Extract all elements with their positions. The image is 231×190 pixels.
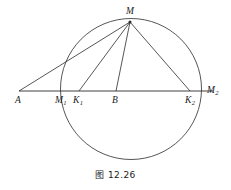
point-label-m2-base: M <box>207 85 215 95</box>
point-label-m: M <box>126 7 134 17</box>
segment-a-to-m <box>19 22 130 91</box>
segment-m-to-k2 <box>130 22 190 91</box>
point-label-m1-base: M <box>55 95 63 105</box>
point-label-k1-sub: 1 <box>80 99 83 106</box>
figure-caption: 图 12.26 <box>0 168 231 181</box>
point-label-k2-base: K <box>185 95 191 105</box>
point-label-k2: K2 <box>185 96 195 106</box>
point-label-k1: K1 <box>73 96 83 106</box>
point-label-m1: M1 <box>55 96 66 106</box>
point-label-k1-base: K <box>73 95 79 105</box>
segment-m-to-b <box>116 22 130 91</box>
point-label-b: B <box>112 96 118 106</box>
segment-m-to-k1 <box>79 22 130 91</box>
point-label-m2-sub: 2 <box>215 89 218 96</box>
point-label-m-base: M <box>126 6 134 16</box>
point-label-b-base: B <box>112 95 118 105</box>
point-label-a-base: A <box>15 95 21 105</box>
point-label-a: A <box>15 96 21 106</box>
geometry-figure: M A M1 K1 B K2 M2 图 12.26 <box>0 0 231 190</box>
point-label-m2: M2 <box>207 86 218 96</box>
circle-shape <box>61 19 202 160</box>
point-label-k2-sub: 2 <box>192 99 195 106</box>
point-label-m1-sub: 1 <box>63 99 66 106</box>
vertex-dot-m <box>129 21 132 24</box>
